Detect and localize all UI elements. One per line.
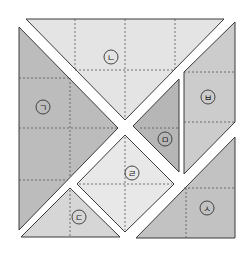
piece-label-text: ㄷ [75, 213, 83, 223]
piece-label-text: ㅁ [161, 135, 169, 145]
piece-label-text: ㄴ [107, 53, 115, 63]
piece-label-text: ㅅ [203, 204, 211, 214]
tangram-canvas: ㄱㄴㄷㄹㅁㅂㅅ [0, 0, 250, 255]
tangram-diagram: ㄱㄴㄷㄹㅁㅂㅅ [0, 0, 250, 255]
piece-label-text: ㅂ [204, 93, 212, 103]
piece-label-text: ㄹ [128, 169, 136, 179]
piece-label-text: ㄱ [39, 103, 47, 113]
